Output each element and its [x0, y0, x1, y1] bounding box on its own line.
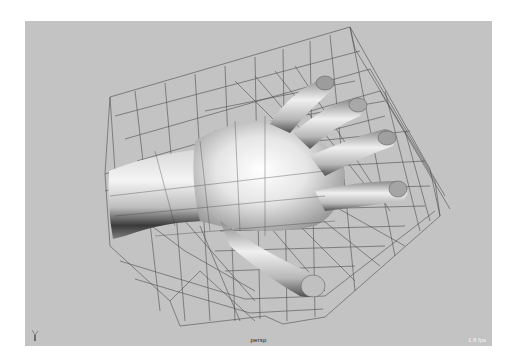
- viewport-persp[interactable]: persp 1.8 fps: [25, 21, 492, 346]
- camera-label: persp: [25, 337, 492, 343]
- hand-model-with-cage[interactable]: [25, 21, 492, 346]
- fps-label: 1.8 fps: [468, 337, 486, 343]
